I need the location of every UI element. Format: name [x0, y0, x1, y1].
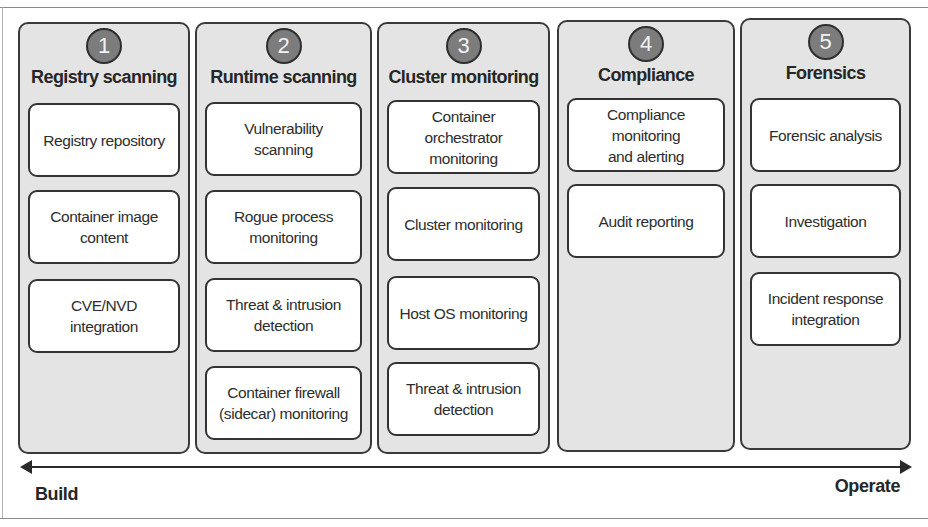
- card-registry-repository: Registry repository: [28, 103, 180, 177]
- column-title: Forensics: [742, 63, 909, 84]
- card-threat-intrusion-detection-cluster: Threat & intrusion detection: [387, 362, 540, 436]
- card-label: Rogue process monitoring: [234, 206, 333, 248]
- card-label: Compliance monitoring and alerting: [607, 104, 685, 167]
- card-label: Threat & intrusion detection: [226, 294, 341, 336]
- arrow-left-icon: [20, 460, 32, 474]
- card-label: Container image content: [50, 206, 158, 248]
- step-number-badge: 3: [446, 28, 482, 64]
- column-forensics: 5 Forensics Forensic analysis Investigat…: [740, 18, 911, 450]
- card-container-orchestrator-monitoring: Container orchestrator monitoring: [387, 100, 540, 174]
- card-label: Container firewall (sidecar) monitoring: [219, 382, 348, 424]
- card-label: Forensic analysis: [769, 125, 882, 146]
- arrow-right-icon: [900, 460, 912, 474]
- column-title: Runtime scanning: [197, 67, 370, 88]
- card-label: Audit reporting: [599, 211, 694, 232]
- card-label: CVE/NVD integration: [70, 295, 138, 337]
- card-cve-nvd-integration: CVE/NVD integration: [28, 279, 180, 353]
- card-label: Container orchestrator monitoring: [425, 106, 503, 169]
- card-host-os-monitoring: Host OS monitoring: [387, 276, 540, 350]
- card-rogue-process-monitoring: Rogue process monitoring: [205, 190, 362, 264]
- column-title: Registry scanning: [20, 67, 188, 88]
- card-label: Registry repository: [43, 130, 165, 151]
- bottom-border-rule: [0, 518, 928, 519]
- card-label: Threat & intrusion detection: [406, 378, 521, 420]
- card-compliance-monitoring-alerting: Compliance monitoring and alerting: [567, 98, 725, 172]
- step-number-badge: 2: [266, 28, 302, 64]
- column-title: Cluster monitoring: [379, 67, 548, 88]
- step-number-badge: 1: [86, 28, 122, 64]
- card-label: Host OS monitoring: [399, 303, 527, 324]
- top-border-rule: [0, 7, 928, 8]
- card-investigation: Investigation: [750, 184, 901, 258]
- card-container-firewall-monitoring: Container firewall (sidecar) monitoring: [205, 366, 362, 440]
- card-cluster-monitoring: Cluster monitoring: [387, 187, 540, 261]
- card-forensic-analysis: Forensic analysis: [750, 98, 901, 172]
- card-container-image-content: Container image content: [28, 190, 180, 264]
- build-operate-axis-line: [28, 466, 900, 468]
- column-runtime-scanning: 2 Runtime scanning Vulnerability scannin…: [195, 22, 372, 454]
- column-compliance: 4 Compliance Compliance monitoring and a…: [557, 20, 735, 452]
- column-registry-scanning: 1 Registry scanning Registry repository …: [18, 22, 190, 454]
- left-border-rule: [2, 7, 3, 518]
- card-label: Incident response integration: [768, 288, 884, 330]
- column-title: Compliance: [559, 65, 733, 86]
- step-number-badge: 4: [628, 26, 664, 62]
- card-label: Investigation: [785, 211, 867, 232]
- card-label: Cluster monitoring: [404, 214, 523, 235]
- card-audit-reporting: Audit reporting: [567, 184, 725, 258]
- axis-label-operate: Operate: [835, 476, 900, 497]
- card-label: Vulnerability scanning: [244, 118, 323, 160]
- card-incident-response-integration: Incident response integration: [750, 272, 901, 346]
- axis-label-build: Build: [35, 484, 78, 505]
- column-cluster-monitoring: 3 Cluster monitoring Container orchestra…: [377, 22, 550, 454]
- card-threat-intrusion-detection: Threat & intrusion detection: [205, 278, 362, 352]
- card-vulnerability-scanning: Vulnerability scanning: [205, 102, 362, 176]
- step-number-badge: 5: [808, 24, 844, 60]
